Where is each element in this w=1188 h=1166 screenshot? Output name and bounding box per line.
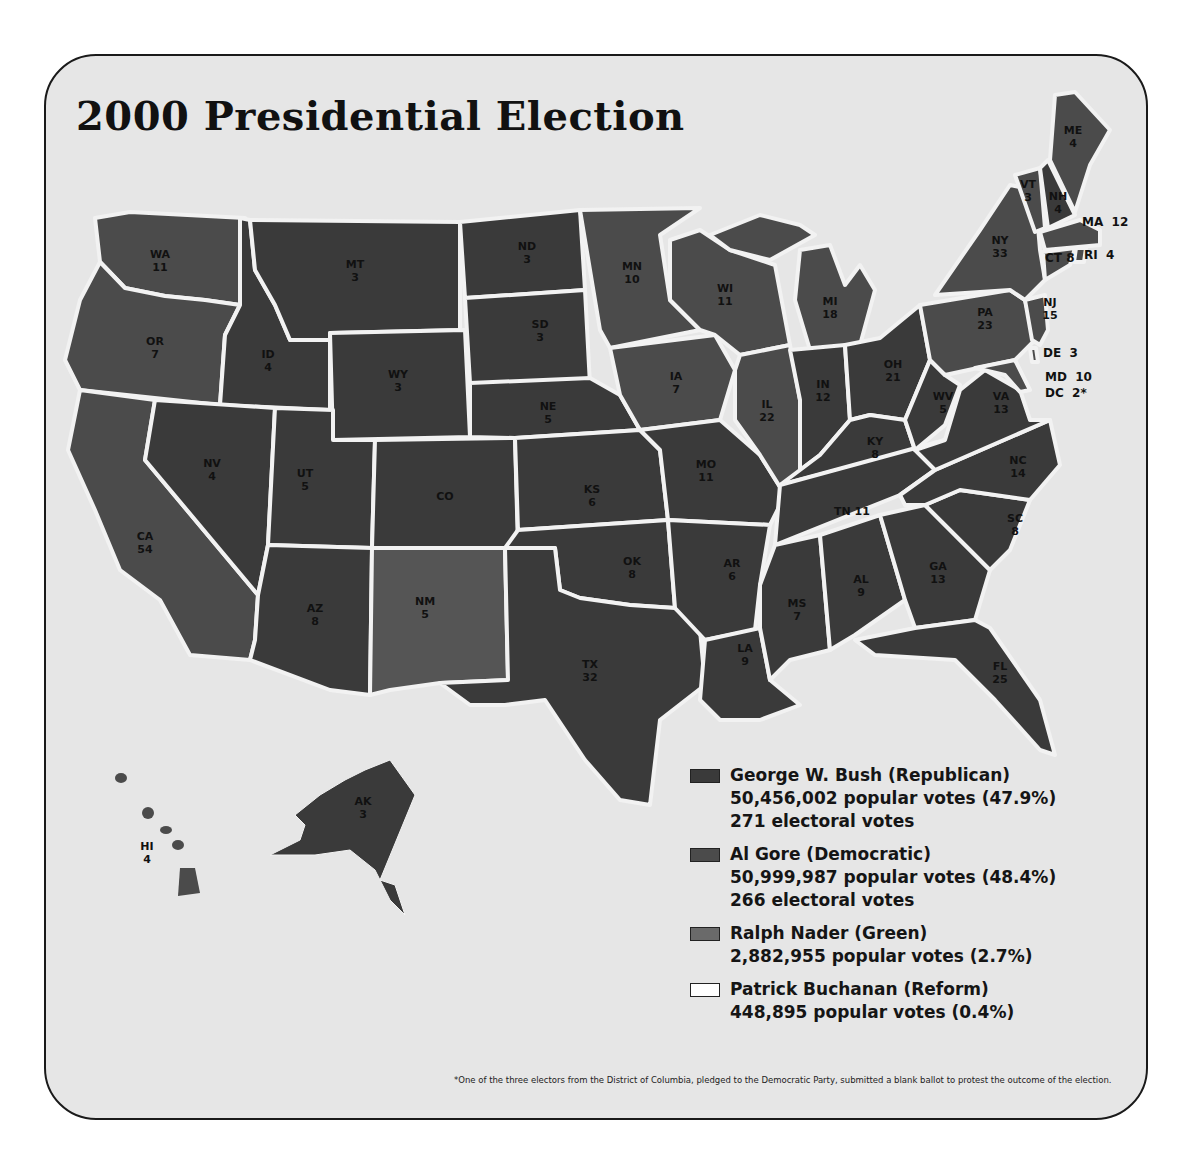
state-ev-nv: 4 xyxy=(208,470,216,483)
state-label-id: ID xyxy=(261,348,274,361)
legend-item-buchanan: Patrick Buchanan (Reform) 448,895 popula… xyxy=(690,978,1056,1024)
state-label-nc: NC xyxy=(1009,454,1026,467)
state-ev-il: 22 xyxy=(759,411,774,424)
state-ev-in: 12 xyxy=(815,391,830,404)
state-label-oh: OH xyxy=(884,358,903,371)
state-label-fl: FL xyxy=(993,660,1008,673)
state-ev-pa: 23 xyxy=(977,319,992,332)
swatch-reform xyxy=(690,983,720,997)
state-label-me: ME xyxy=(1064,124,1082,137)
state-label-sd: SD xyxy=(531,318,548,331)
state-label-ak: AK xyxy=(354,795,372,808)
state-ev-nj: 15 xyxy=(1042,309,1057,322)
footnote: *One of the three electors from the Dist… xyxy=(454,1075,1112,1085)
state-label-az: AZ xyxy=(307,602,324,615)
state-FL[interactable] xyxy=(855,620,1055,755)
state-label-dc: DC 2* xyxy=(1045,386,1087,400)
state-label-al: AL xyxy=(853,573,869,586)
state-ev-oh: 21 xyxy=(885,371,900,384)
state-ev-la: 9 xyxy=(741,655,749,668)
state-ev-ms: 7 xyxy=(793,610,801,623)
state-ev-vt: 3 xyxy=(1024,191,1032,204)
swatch-republican xyxy=(690,769,720,783)
state-ev-mi: 18 xyxy=(822,308,837,321)
state-label-ok: OK xyxy=(623,555,641,568)
state-label-de: DE 3 xyxy=(1043,346,1078,360)
state-label-nh: NH xyxy=(1049,190,1067,203)
state-label-wi: WI xyxy=(717,282,733,295)
state-label-ne: NE xyxy=(540,400,557,413)
state-ev-ga: 13 xyxy=(930,573,945,586)
state-ev-me: 4 xyxy=(1069,137,1077,150)
state-label-mn: MN xyxy=(622,260,642,273)
state-label-ri: RI 4 xyxy=(1084,248,1114,262)
state-SD[interactable] xyxy=(465,290,590,385)
state-label-ma: MA 12 xyxy=(1082,215,1128,229)
legend-item-nader: Ralph Nader (Green) 2,882,955 popular vo… xyxy=(690,922,1056,968)
state-ev-wa: 11 xyxy=(152,261,167,274)
state-ev-wv: 5 xyxy=(939,403,947,416)
state-label-nv: NV xyxy=(203,457,221,470)
state-label-mt: MT xyxy=(346,258,365,271)
state-ev-ia: 7 xyxy=(672,383,680,396)
state-ev-va: 13 xyxy=(993,403,1008,416)
state-label-in: IN xyxy=(816,378,829,391)
state-label-ar: AR xyxy=(724,557,742,570)
state-ev-ut: 5 xyxy=(301,480,309,493)
state-label-mi: MI xyxy=(822,295,837,308)
state-label-tx: TX xyxy=(582,658,599,671)
state-HI[interactable] xyxy=(115,773,200,896)
state-ev-sc: 8 xyxy=(1011,525,1019,538)
state-KS[interactable] xyxy=(515,430,668,530)
state-ev-al: 9 xyxy=(857,586,865,599)
swatch-green xyxy=(690,927,720,941)
state-label-md: MD 10 xyxy=(1045,370,1092,384)
state-label-wv: WV xyxy=(933,390,954,403)
state-label-ks: KS xyxy=(584,483,601,496)
legend-item-bush: George W. Bush (Republican) 50,456,002 p… xyxy=(690,764,1056,833)
state-ev-ne: 5 xyxy=(544,413,552,426)
state-ev-mo: 11 xyxy=(698,471,713,484)
state-ev-nc: 14 xyxy=(1010,467,1026,480)
state-label-ia: IA xyxy=(670,370,683,383)
legend: George W. Bush (Republican) 50,456,002 p… xyxy=(690,764,1056,1034)
swatch-democratic xyxy=(690,848,720,862)
state-label-va: VA xyxy=(993,390,1010,403)
state-ev-wi: 11 xyxy=(717,295,732,308)
state-label-ky: KY xyxy=(867,435,885,448)
state-ev-ks: 6 xyxy=(588,496,596,509)
state-ev-ca: 54 xyxy=(137,543,153,556)
state-label-nd: ND xyxy=(518,240,536,253)
state-ev-nm: 5 xyxy=(421,608,429,621)
state-label-la: LA xyxy=(737,642,753,655)
state-ev-or: 7 xyxy=(151,348,159,361)
state-label-hi: HI xyxy=(140,840,153,853)
state-label-wa: WA xyxy=(150,248,171,261)
state-DE[interactable] xyxy=(1030,348,1038,362)
state-ev-ak: 3 xyxy=(359,808,367,821)
state-ev-az: 8 xyxy=(311,615,319,628)
state-label-tn: TN 11 xyxy=(834,505,870,518)
state-label-ga: GA xyxy=(929,560,947,573)
state-ev-sd: 3 xyxy=(536,331,544,344)
state-label-pa: PA xyxy=(977,306,993,319)
state-ev-nh: 4 xyxy=(1054,203,1062,216)
state-ev-mt: 3 xyxy=(351,271,359,284)
state-label-il: IL xyxy=(761,398,772,411)
state-NM[interactable] xyxy=(370,548,508,695)
state-AK[interactable] xyxy=(270,760,415,915)
state-ev-mn: 10 xyxy=(624,273,640,286)
legend-item-gore: Al Gore (Democratic) 50,999,987 popular … xyxy=(690,843,1056,912)
state-label-ms: MS xyxy=(788,597,807,610)
state-label-wy: WY xyxy=(388,368,409,381)
state-label-nm: NM xyxy=(415,595,435,608)
state-ev-ar: 6 xyxy=(728,570,736,583)
state-label-ca: CA xyxy=(137,530,154,543)
state-label-ct: CT 8 xyxy=(1045,251,1075,265)
state-ev-ny: 33 xyxy=(992,247,1007,260)
state-ev-wy: 3 xyxy=(394,381,402,394)
state-label-ut: UT xyxy=(297,467,314,480)
state-label-ny: NY xyxy=(991,234,1009,247)
state-ev-ok: 8 xyxy=(628,568,636,581)
state-ev-hi: 4 xyxy=(143,853,151,866)
